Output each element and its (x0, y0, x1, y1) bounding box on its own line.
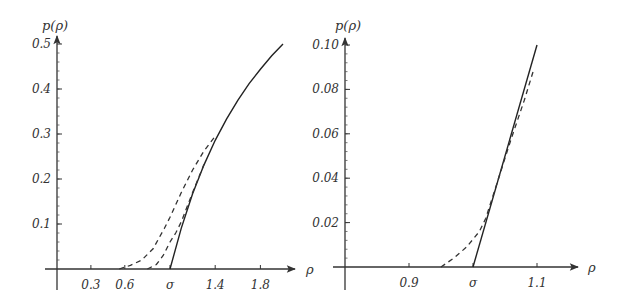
x-axis-label: ρ (305, 262, 314, 277)
solid-curve (473, 45, 537, 267)
y-tick-label: 0.10 (312, 38, 339, 52)
y-tick-label: 0.1 (32, 217, 51, 231)
dashed-curve (441, 69, 534, 267)
dashed-curve (119, 136, 215, 269)
right-chart-panel: 0.020.040.060.080.100.9σ1.1ρp(ρ) (312, 18, 596, 290)
x-tick-label: 1.8 (251, 278, 270, 292)
y-tick-label: 0.5 (32, 37, 51, 51)
left-chart-panel: 0.10.20.30.40.50.30.6σ1.41.8ρp(ρ) (32, 18, 314, 292)
y-tick-label: 0.2 (32, 172, 51, 186)
y-axis-label: p(ρ) (335, 18, 361, 33)
y-tick-label: 0.08 (312, 82, 339, 96)
sigma-label: σ (166, 278, 175, 292)
figure: 0.10.20.30.40.50.30.6σ1.41.8ρp(ρ) 0.020.… (0, 0, 626, 302)
x-tick-label: 0.3 (81, 278, 100, 292)
y-tick-label: 0.3 (32, 127, 51, 141)
y-tick-label: 0.02 (312, 216, 339, 230)
sigma-label: σ (469, 276, 478, 290)
x-tick-label: 1.4 (206, 278, 225, 292)
x-tick-label: 0.6 (115, 278, 134, 292)
y-tick-label: 0.06 (312, 127, 339, 141)
y-axis-label: p(ρ) (42, 18, 68, 33)
x-tick-label: 0.9 (399, 276, 418, 290)
x-tick-label: 1.1 (527, 276, 546, 290)
y-tick-label: 0.04 (312, 171, 339, 185)
dashed-curve (147, 165, 204, 269)
y-tick-label: 0.4 (32, 82, 51, 96)
x-axis-label: ρ (587, 260, 596, 275)
solid-curve (170, 44, 283, 269)
